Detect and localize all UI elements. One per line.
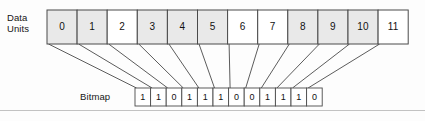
connector-line-1 [79,44,153,88]
data-unit-label: 6 [240,21,246,32]
bitmap-bit-label: 0 [171,92,176,102]
bitmap-bit-label: 1 [218,92,223,102]
bitmap-bit-label: 0 [249,92,254,102]
bitmap-bit-label: 1 [140,92,145,102]
connector-line-0 [49,44,137,88]
bitmap-bit-label: 1 [203,92,208,102]
connector-line-2 [109,44,168,88]
bitmap-bit-label: 1 [156,92,161,102]
connector-line-8 [261,44,289,88]
connector-line-7 [246,44,260,88]
connector-line-6 [229,44,230,88]
bitmap-allocation-figure: DataUnits Bitmap 01234567891011 11011100… [0,0,425,121]
bitmap-bit-label: 1 [265,92,270,102]
data-units-row: 01234567891011 [47,10,408,44]
bitmap-bit-label: 1 [296,92,301,102]
data-unit-label: 5 [210,21,216,32]
bitmap-row: 110111001110 [135,88,322,106]
data-unit-label: 0 [59,21,65,32]
connector-line-5 [199,44,215,88]
data-unit-label: 3 [149,21,155,32]
bitmap-bit-label: 0 [312,92,317,102]
bitmap-bit-label: 1 [281,92,286,102]
data-unit-label: 10 [357,21,369,32]
connector-line-9 [277,44,320,88]
figure-canvas: 01234567891011 110111001110 [0,0,425,121]
connector-lines-group [49,44,380,88]
data-unit-label: 7 [270,21,276,32]
data-unit-label: 4 [180,21,186,32]
data-unit-label: 8 [300,21,306,32]
connector-line-10 [293,44,350,88]
bitmap-bit-label: 1 [187,92,192,102]
connector-line-4 [169,44,199,88]
bitmap-bit-label: 0 [234,92,239,102]
data-unit-label: 11 [388,21,399,32]
connector-line-11 [308,44,380,88]
data-unit-label: 2 [119,21,125,32]
data-unit-label: 9 [330,21,336,32]
data-unit-label: 1 [89,21,95,32]
connector-line-3 [139,44,184,88]
